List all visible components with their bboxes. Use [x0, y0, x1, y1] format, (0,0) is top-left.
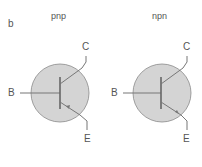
pnp-transistor-symbol: [20, 56, 89, 130]
npn-transistor-symbol: [123, 56, 191, 130]
pnp-base-label: B: [8, 88, 15, 98]
npn-emitter-label: E: [183, 134, 190, 144]
pnp-emitter-label: E: [84, 134, 91, 144]
transistor-symbols-diagram: [0, 0, 202, 167]
npn-collector-label: C: [183, 42, 190, 52]
pnp-collector-label: C: [82, 42, 89, 52]
npn-base-label: B: [111, 88, 118, 98]
